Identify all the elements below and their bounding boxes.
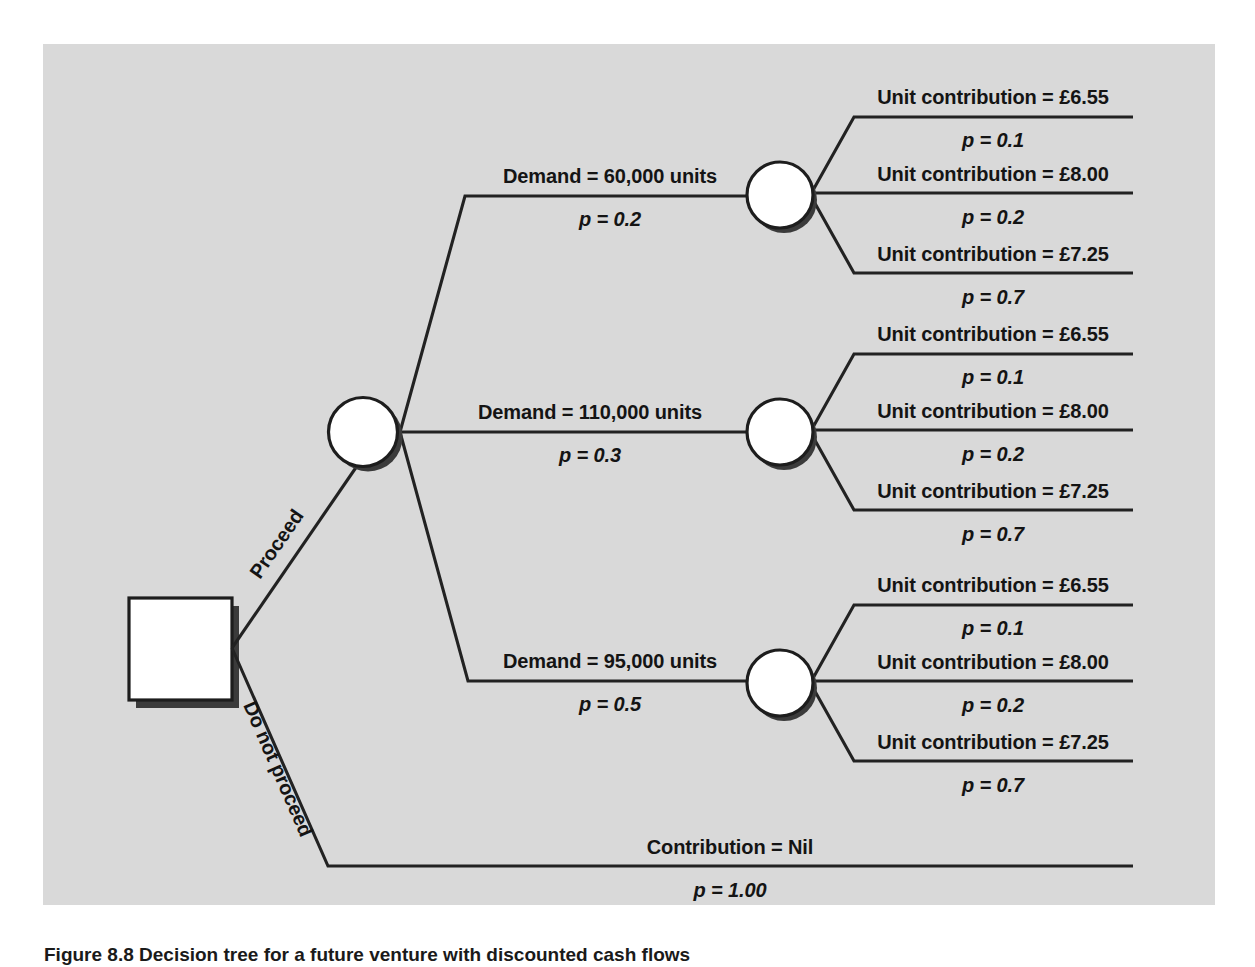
label-g3-contribution-725: Unit contribution = £7.25 (877, 731, 1108, 753)
label-g3-contribution-655: Unit contribution = £6.55 (877, 574, 1108, 596)
branch-demand-95000-line (400, 432, 747, 681)
label-g1-prob-800: p = 0.2 (961, 206, 1024, 228)
chance-node-2[interactable] (747, 162, 813, 228)
label-demand-110000-prob: p = 0.3 (558, 444, 621, 466)
label-contribution-nil-prob: p = 1.00 (692, 879, 766, 901)
label-do-not-proceed: Do not proceed (239, 698, 317, 840)
figure-caption: Figure 8.8 Decision tree for a future ve… (44, 944, 1144, 966)
chance-node-3[interactable] (747, 399, 813, 465)
label-g2-prob-655: p = 0.1 (961, 366, 1024, 388)
label-demand-110000: Demand = 110,000 units (478, 401, 702, 423)
chance-node-contribution-3[interactable] (747, 650, 817, 721)
decision-square[interactable] (129, 598, 232, 700)
chance-node-contribution-1[interactable] (747, 162, 817, 233)
label-contribution-nil: Contribution = Nil (647, 836, 814, 858)
label-demand-60000-prob: p = 0.2 (578, 208, 641, 230)
label-g3-contribution-800: Unit contribution = £8.00 (877, 651, 1108, 673)
label-demand-60000: Demand = 60,000 units (503, 165, 717, 187)
label-g1-contribution-655: Unit contribution = £6.55 (877, 86, 1108, 108)
label-g1-contribution-725: Unit contribution = £7.25 (877, 243, 1108, 265)
label-g2-contribution-725: Unit contribution = £7.25 (877, 480, 1108, 502)
branch-proceed-line (232, 466, 357, 648)
label-g1-contribution-800: Unit contribution = £8.00 (877, 163, 1108, 185)
label-demand-95000: Demand = 95,000 units (503, 650, 717, 672)
chance-node-4[interactable] (747, 650, 813, 716)
decision-tree-figure: Proceed Do not proceed Unit contribution… (0, 0, 1255, 967)
label-g2-prob-800: p = 0.2 (961, 443, 1024, 465)
label-proceed: Proceed (245, 505, 307, 582)
chance-node-contribution-2[interactable] (747, 399, 817, 470)
label-g3-prob-655: p = 0.1 (961, 617, 1024, 639)
branch-demand-60000-line (400, 196, 747, 432)
label-g2-contribution-800: Unit contribution = £8.00 (877, 400, 1108, 422)
chance-node-demand[interactable] (329, 398, 403, 472)
decision-tree-canvas: Proceed Do not proceed Unit contribution… (0, 0, 1255, 967)
root-decision-node[interactable] (129, 598, 239, 708)
label-g1-prob-725: p = 0.7 (961, 286, 1025, 308)
label-g3-prob-800: p = 0.2 (961, 694, 1024, 716)
label-demand-95000-prob: p = 0.5 (578, 693, 642, 715)
label-g1-prob-655: p = 0.1 (961, 129, 1024, 151)
chance-node-1[interactable] (329, 398, 398, 467)
label-g2-contribution-655: Unit contribution = £6.55 (877, 323, 1108, 345)
label-g3-prob-725: p = 0.7 (961, 774, 1025, 796)
label-g2-prob-725: p = 0.7 (961, 523, 1025, 545)
